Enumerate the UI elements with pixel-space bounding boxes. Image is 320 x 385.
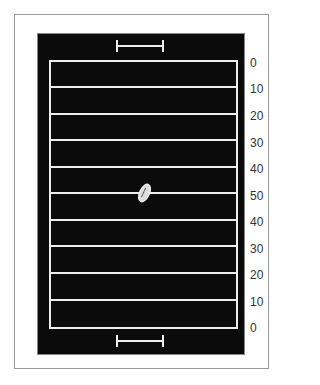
yard-label: 10 [250,296,263,308]
yard-label: 40 [250,216,263,228]
yard-line [49,139,238,141]
yard-label: 20 [250,110,263,122]
yard-label: 30 [250,243,263,255]
yard-label: 40 [250,163,263,175]
yard-label: 30 [250,137,263,149]
yard-label: 0 [250,57,257,69]
yard-label: 0 [250,322,257,334]
yard-line [49,219,238,221]
yard-label: 10 [250,83,263,95]
yard-line [49,86,238,88]
goalpost-top-icon [116,40,164,52]
yard-line [49,299,238,301]
yard-line [49,272,238,274]
yard-line [49,113,238,115]
yard-line [49,166,238,168]
goalpost-bottom-icon [116,335,164,347]
yard-label: 50 [250,190,263,202]
yard-line [49,245,238,247]
yard-label: 20 [250,269,263,281]
